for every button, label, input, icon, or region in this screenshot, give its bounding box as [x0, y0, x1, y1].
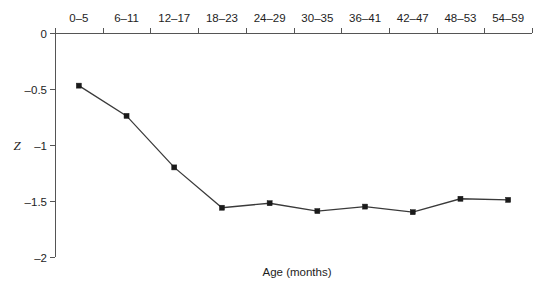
y-tick-label: –1: [34, 140, 47, 152]
x-axis-category-labels: 0–56–1112–1718–2324–2930–3536–4142–4748–…: [69, 12, 524, 24]
y-axis-title: Z: [13, 138, 21, 153]
y-tick-label: –1.5: [25, 196, 47, 208]
y-tick-label: –0.5: [25, 84, 47, 96]
x-category-label: 12–17: [158, 12, 190, 24]
data-point-marker: [315, 209, 320, 214]
data-point-marker: [458, 196, 463, 201]
chart-container: 0–56–1112–1718–2324–2930–3536–4142–4748–…: [0, 0, 542, 291]
x-category-label: 36–41: [349, 12, 381, 24]
x-category-label: 6–11: [114, 12, 139, 24]
y-tick-label: 0: [41, 28, 47, 40]
data-point-marker: [267, 201, 272, 206]
data-point-marker: [363, 204, 368, 209]
x-category-label: 54–59: [492, 12, 524, 24]
data-point-marker: [410, 210, 415, 215]
x-category-label: 48–53: [444, 12, 476, 24]
data-point-marker: [506, 197, 511, 202]
line-chart: 0–56–1112–1718–2324–2930–3536–4142–4748–…: [0, 0, 542, 291]
y-axis-tick-labels: 0–0.5–1–1.5–2: [25, 28, 47, 264]
y-axis-ticks: [50, 34, 55, 258]
x-category-label: 0–5: [69, 12, 88, 24]
x-category-label: 18–23: [206, 12, 238, 24]
x-category-label: 30–35: [301, 12, 333, 24]
data-series-markers: [76, 83, 510, 215]
data-point-marker: [76, 83, 81, 88]
data-point-marker: [219, 205, 224, 210]
x-axis-ticks: [56, 28, 533, 33]
data-series-line: [79, 86, 508, 213]
data-point-marker: [124, 113, 129, 118]
y-tick-label: –2: [34, 252, 47, 264]
x-category-label: 42–47: [397, 12, 429, 24]
data-point-marker: [172, 165, 177, 170]
x-axis-title: Age (months): [262, 266, 331, 278]
x-category-label: 24–29: [254, 12, 286, 24]
